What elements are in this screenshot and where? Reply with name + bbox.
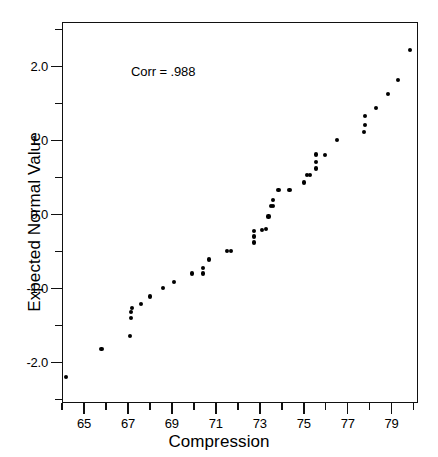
x-tick-label: 73 bbox=[240, 416, 280, 431]
y-tick-minor bbox=[55, 103, 62, 105]
y-tick-minor bbox=[55, 29, 62, 31]
y-tick-minor bbox=[55, 399, 62, 401]
y-tick-label: 2.0 bbox=[0, 59, 48, 74]
scatter-plot-figure: 2.01.00.0-1.0-2.06567697173757779 Corr =… bbox=[0, 0, 438, 457]
x-tick-label: 69 bbox=[152, 416, 192, 431]
y-tick-label: -2.0 bbox=[0, 355, 48, 370]
x-tick-label: 79 bbox=[372, 416, 412, 431]
y-tick-major bbox=[51, 66, 62, 68]
x-tick-label: 77 bbox=[328, 416, 368, 431]
y-axis-title: Expected Normal Value bbox=[25, 92, 45, 352]
x-axis-title: Compression bbox=[0, 432, 438, 452]
x-tick-major bbox=[391, 403, 393, 414]
x-tick-minor bbox=[237, 403, 239, 410]
x-tick-minor bbox=[413, 403, 415, 410]
x-tick-label: 75 bbox=[284, 416, 324, 431]
x-tick-minor bbox=[325, 403, 327, 410]
x-tick-label: 65 bbox=[64, 416, 104, 431]
x-tick-minor bbox=[61, 403, 63, 410]
x-tick-minor bbox=[281, 403, 283, 410]
x-tick-minor bbox=[369, 403, 371, 410]
y-tick-major bbox=[51, 140, 62, 142]
x-tick-major bbox=[127, 403, 129, 414]
plot-area-frame bbox=[62, 22, 418, 403]
correlation-annotation: Corr = .988 bbox=[131, 64, 195, 79]
x-tick-major bbox=[259, 403, 261, 414]
x-tick-label: 67 bbox=[108, 416, 148, 431]
y-tick-minor bbox=[55, 177, 62, 179]
x-tick-major bbox=[83, 403, 85, 414]
y-tick-major bbox=[51, 362, 62, 364]
x-tick-minor bbox=[193, 403, 195, 410]
x-tick-major bbox=[171, 403, 173, 414]
y-tick-minor bbox=[55, 325, 62, 327]
y-tick-major bbox=[51, 214, 62, 216]
x-tick-major bbox=[215, 403, 217, 414]
y-tick-major bbox=[51, 288, 62, 290]
x-tick-label: 71 bbox=[196, 416, 236, 431]
y-tick-minor bbox=[55, 251, 62, 253]
x-tick-minor bbox=[105, 403, 107, 410]
x-tick-minor bbox=[149, 403, 151, 410]
x-tick-major bbox=[347, 403, 349, 414]
x-tick-major bbox=[303, 403, 305, 414]
